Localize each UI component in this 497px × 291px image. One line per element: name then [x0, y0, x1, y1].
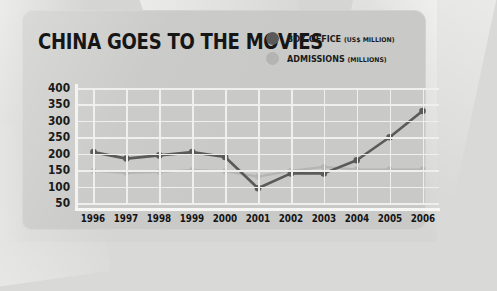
- gridline-v: [159, 88, 161, 203]
- x-axis-tick-1999: 1999: [180, 213, 205, 224]
- gridline-v: [291, 88, 293, 203]
- x-axis-tick-1996: 1996: [81, 213, 106, 224]
- y-axis-labels: 50100150200250300350400: [22, 88, 70, 203]
- gridline-v: [126, 88, 128, 203]
- x-axis-tick-1997: 1997: [114, 213, 139, 224]
- gridline-h: [77, 203, 439, 205]
- x-axis-tick-2006: 2006: [410, 213, 435, 224]
- x-axis-labels: 1996199719981999200020012002200320042005…: [77, 213, 439, 229]
- y-axis-tick-350: 350: [48, 97, 70, 111]
- gridline-v: [225, 88, 227, 203]
- gridline-v: [93, 88, 95, 203]
- legend-item-box-office: BOX OFFICE (US$ MILLION): [266, 32, 418, 45]
- x-axis-line: [75, 208, 440, 211]
- y-axis-tick-300: 300: [48, 114, 70, 128]
- legend-dot-admissions: [266, 52, 279, 65]
- x-axis-tick-2000: 2000: [213, 213, 238, 224]
- y-axis-tick-400: 400: [48, 81, 70, 95]
- y-axis-tick-200: 200: [48, 147, 70, 161]
- x-axis-tick-2004: 2004: [344, 213, 369, 224]
- x-axis-tick-2001: 2001: [246, 213, 271, 224]
- gridline-v: [390, 88, 392, 203]
- x-axis-tick-2003: 2003: [312, 213, 337, 224]
- x-axis-tick-1998: 1998: [147, 213, 172, 224]
- gridline-v: [423, 88, 425, 203]
- y-axis-tick-150: 150: [48, 163, 70, 177]
- x-axis-tick-2005: 2005: [377, 213, 402, 224]
- y-axis-tick-250: 250: [48, 130, 70, 144]
- chart-card: CHINA GOES TO THE MOVIES BOX OFFICE (US$…: [22, 10, 426, 230]
- legend-label-box-office: BOX OFFICE (US$ MILLION): [287, 34, 395, 44]
- legend-item-admissions: ADMISSIONS (MILLIONS): [266, 52, 418, 65]
- y-axis-tick-50: 50: [55, 196, 70, 210]
- y-axis-tick-100: 100: [48, 180, 70, 194]
- chart-legend: BOX OFFICE (US$ MILLION) ADMISSIONS (MIL…: [266, 32, 418, 72]
- x-axis-tick-2002: 2002: [279, 213, 304, 224]
- legend-dot-box-office: [266, 32, 279, 45]
- plot-area: [77, 88, 439, 203]
- gridline-v: [357, 88, 359, 203]
- gridline-v: [258, 88, 260, 203]
- gridline-v: [324, 88, 326, 203]
- gridline-v: [192, 88, 194, 203]
- legend-label-admissions: ADMISSIONS (MILLIONS): [287, 54, 387, 64]
